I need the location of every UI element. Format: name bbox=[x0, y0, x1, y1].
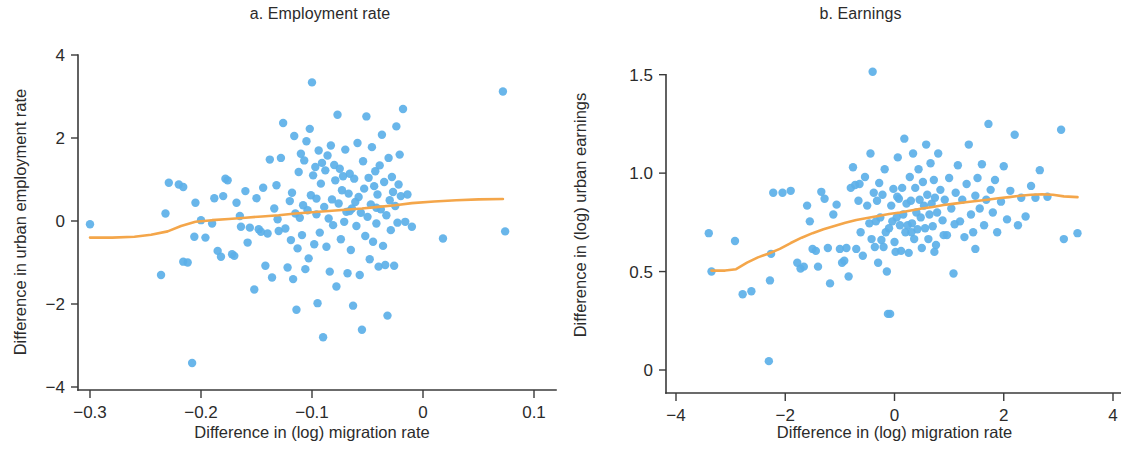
scatter-point bbox=[806, 217, 814, 225]
scatter-point bbox=[887, 201, 895, 209]
scatter-point bbox=[880, 165, 888, 173]
scatter-point bbox=[369, 238, 377, 246]
scatter-point bbox=[871, 243, 879, 251]
scatter-point bbox=[230, 252, 238, 260]
scatter-point bbox=[286, 197, 294, 205]
scatter-point bbox=[820, 195, 828, 203]
scatter-point bbox=[950, 220, 958, 228]
scatter-point bbox=[261, 262, 269, 270]
scatter-point bbox=[879, 243, 887, 251]
scatter-point bbox=[389, 188, 397, 196]
scatter-point bbox=[936, 186, 944, 194]
scatter-point bbox=[384, 154, 392, 162]
scatter-points bbox=[705, 68, 1082, 366]
scatter-point bbox=[921, 224, 929, 232]
scatter-point bbox=[905, 249, 913, 257]
scatter-point bbox=[272, 181, 280, 189]
scatter-point bbox=[333, 111, 341, 119]
scatter-point bbox=[874, 259, 882, 267]
scatter-point bbox=[900, 134, 908, 142]
scatter-point bbox=[870, 189, 878, 197]
y-tick-label: 0 bbox=[644, 361, 653, 380]
scatter-point bbox=[250, 285, 258, 293]
scatter-point bbox=[1014, 221, 1022, 229]
y-tick-label: 0.5 bbox=[629, 263, 653, 282]
scatter-point bbox=[1021, 212, 1029, 220]
scatter-point bbox=[399, 105, 407, 113]
y-tick-label: 2 bbox=[56, 129, 65, 148]
panel-a-plot: −4−2024−0.3−0.2−0.100.1Difference in (lo… bbox=[0, 0, 560, 452]
scatter-point bbox=[863, 201, 871, 209]
scatter-point bbox=[290, 132, 298, 140]
scatter-point bbox=[383, 311, 391, 319]
scatter-point bbox=[337, 235, 345, 243]
scatter-point bbox=[232, 199, 240, 207]
scatter-point bbox=[331, 176, 339, 184]
scatter-point bbox=[856, 228, 864, 236]
scatter-point bbox=[336, 165, 344, 173]
scatter-point bbox=[844, 272, 852, 280]
scatter-point bbox=[321, 166, 329, 174]
scatter-point bbox=[883, 267, 891, 275]
scatter-point bbox=[1000, 162, 1008, 170]
scatter-point bbox=[917, 213, 925, 221]
scatter-point bbox=[868, 68, 876, 76]
scatter-point bbox=[408, 223, 416, 231]
scatter-point bbox=[986, 186, 994, 194]
scatter-point bbox=[332, 282, 340, 290]
scatter-point bbox=[292, 306, 300, 314]
scatter-point bbox=[270, 204, 278, 212]
scatter-point bbox=[268, 273, 276, 281]
scatter-point bbox=[747, 287, 755, 295]
scatter-point bbox=[157, 271, 165, 279]
scatter-point bbox=[283, 263, 291, 271]
scatter-point bbox=[308, 78, 316, 86]
scatter-point bbox=[340, 218, 348, 226]
scatter-point bbox=[161, 209, 169, 217]
scatter-point bbox=[765, 357, 773, 365]
scatter-point bbox=[929, 222, 937, 230]
scatter-point bbox=[310, 240, 318, 248]
scatter-point bbox=[306, 125, 314, 133]
scatter-point bbox=[1010, 131, 1018, 139]
x-tick-label: 0 bbox=[418, 403, 427, 422]
scatter-point bbox=[363, 213, 371, 221]
scatter-point bbox=[960, 233, 968, 241]
scatter-point bbox=[826, 279, 834, 287]
scatter-point bbox=[971, 192, 979, 200]
scatter-point bbox=[954, 161, 962, 169]
scatter-point bbox=[281, 224, 289, 232]
scatter-point bbox=[849, 163, 857, 171]
scatter-point bbox=[931, 194, 939, 202]
scatter-point bbox=[401, 218, 409, 226]
scatter-point bbox=[897, 247, 905, 255]
scatter-point bbox=[373, 190, 381, 198]
scatter-point bbox=[353, 139, 361, 147]
y-tick-label: 0 bbox=[56, 212, 65, 231]
scatter-point bbox=[379, 242, 387, 250]
scatter-point bbox=[326, 267, 334, 275]
y-axis-title: Difference in (log) urban earnings bbox=[571, 93, 589, 338]
scatter-point bbox=[359, 157, 367, 165]
scatter-point bbox=[991, 176, 999, 184]
scatter-point bbox=[439, 234, 447, 242]
scatter-point bbox=[919, 178, 927, 186]
scatter-point bbox=[832, 200, 840, 208]
scatter-point bbox=[296, 213, 304, 221]
scatter-point bbox=[787, 187, 795, 195]
scatter-point bbox=[382, 211, 390, 219]
scatter-point bbox=[343, 269, 351, 277]
scatter-point bbox=[341, 145, 349, 153]
scatter-point bbox=[705, 229, 713, 237]
scatter-point bbox=[188, 359, 196, 367]
scatter-point bbox=[951, 189, 959, 197]
scatter-point bbox=[323, 151, 331, 159]
scatter-point bbox=[875, 179, 883, 187]
scatter-point bbox=[210, 194, 218, 202]
y-tick-label: −4 bbox=[46, 378, 65, 397]
x-tick-label: −4 bbox=[666, 406, 685, 425]
scatter-point bbox=[201, 233, 209, 241]
scatter-point bbox=[878, 191, 886, 199]
scatter-point bbox=[366, 255, 374, 263]
scatter-point bbox=[347, 246, 355, 254]
